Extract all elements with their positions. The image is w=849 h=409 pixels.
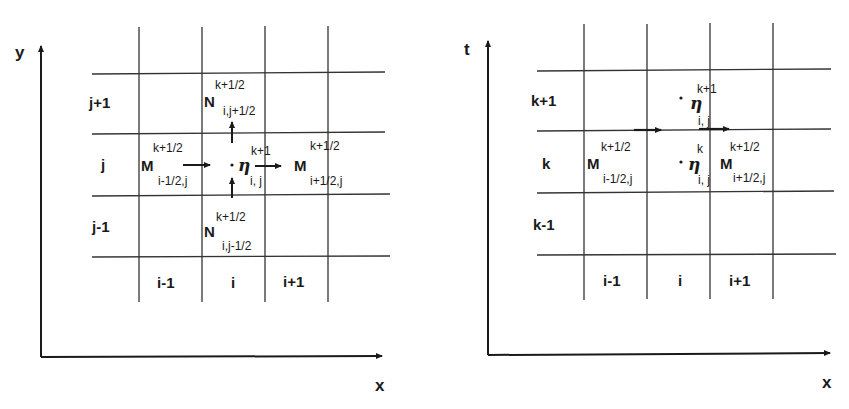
svg-text:i+1/2,j: i+1/2,j: [733, 171, 765, 185]
svg-text:i,j-1/2: i,j-1/2: [222, 239, 252, 253]
x-axis-line-right: [488, 353, 830, 355]
row-label-j: j: [100, 156, 105, 173]
svg-text:k+1: k+1: [697, 82, 717, 96]
col-label-i: i: [231, 274, 235, 291]
svg-text:k: k: [697, 142, 704, 156]
svg-text:N: N: [204, 223, 215, 240]
right-grid: [537, 23, 836, 300]
x-axis-label: x: [375, 376, 385, 395]
svg-text:i, j: i, j: [698, 114, 710, 128]
y-axis-label: y: [15, 43, 25, 62]
node-n-top: N k+1/2 i,j+1/2: [204, 78, 256, 118]
svg-text:M: M: [294, 157, 307, 174]
col-label-i-minus-1-right: i-1: [603, 272, 621, 289]
grid-point-dot: [230, 163, 233, 166]
svg-text:M: M: [141, 157, 154, 174]
svg-text:k+1: k+1: [251, 144, 271, 158]
t-axis-label: t: [464, 40, 470, 59]
row-label-j-plus-1: j+1: [88, 94, 110, 111]
node-n-bottom: N k+1/2 i,j-1/2: [204, 210, 252, 253]
svg-text:i-1/2,j: i-1/2,j: [158, 174, 187, 188]
right-axes: [488, 41, 830, 355]
x-axis-label-right: x: [822, 373, 832, 392]
col-label-i-right: i: [678, 272, 682, 289]
svg-text:k+1/2: k+1/2: [153, 141, 183, 155]
svg-text:i+1/2,j: i+1/2,j: [310, 174, 342, 188]
svg-text:η: η: [690, 93, 702, 113]
svg-text:N: N: [204, 93, 215, 110]
node-m-right: M k+1/2 i+1/2,j: [294, 139, 342, 188]
svg-text:k+1/2: k+1/2: [601, 140, 631, 154]
col-label-i-plus-1: i+1: [283, 273, 304, 290]
row-label-j-minus-1: j-1: [91, 218, 110, 235]
svg-text:i-1/2,j: i-1/2,j: [603, 172, 632, 186]
col-label-i-minus-1: i-1: [157, 274, 175, 291]
node-m-right-right: M k+1/2 i+1/2,j: [720, 140, 765, 185]
node-eta-upper: η k+1 i, j: [679, 82, 717, 128]
node-m-left: M k+1/2 i-1/2,j: [141, 141, 187, 188]
row-label-k: k: [542, 155, 551, 172]
node-m-left-right: M k+1/2 i-1/2,j: [587, 140, 632, 186]
svg-text:k+1/2: k+1/2: [310, 139, 340, 153]
right-diagram: t x k+1 k k-1 i-1 i i+1 η k+1 i, j M k+1…: [464, 23, 836, 392]
row-label-k-plus-1: k+1: [531, 92, 556, 109]
node-eta-lower: η k i, j: [679, 142, 710, 187]
svg-text:k+1/2: k+1/2: [216, 210, 246, 224]
svg-text:η: η: [238, 155, 250, 175]
left-diagram: y x j+1 j j-1 i-1 i i+1 N k+1/2 i,j+1/2 …: [15, 26, 390, 395]
svg-text:i, j: i, j: [250, 174, 262, 188]
grid-point-dot-upper: [679, 96, 682, 99]
svg-text:M: M: [587, 155, 600, 172]
svg-text:M: M: [720, 155, 733, 172]
col-label-i-plus-1-right: i+1: [729, 272, 750, 289]
svg-text:i, j: i, j: [698, 173, 710, 187]
diagram-canvas: y x j+1 j j-1 i-1 i i+1 N k+1/2 i,j+1/2 …: [0, 0, 849, 409]
grid-point-dot-lower: [679, 160, 682, 163]
svg-text:k+1/2: k+1/2: [215, 78, 245, 92]
svg-text:i,j+1/2: i,j+1/2: [223, 104, 256, 118]
row-label-k-minus-1: k-1: [533, 216, 555, 233]
svg-text:η: η: [688, 154, 700, 174]
svg-text:k+1/2: k+1/2: [730, 140, 760, 154]
x-axis-line: [41, 356, 382, 357]
